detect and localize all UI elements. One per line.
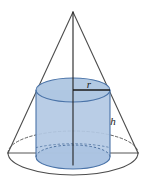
height-label: h [110, 115, 116, 127]
cylinder-in-cone-diagram: r h [0, 0, 149, 182]
radius-label: r [87, 78, 92, 90]
geometry-figure: r h [0, 0, 149, 182]
